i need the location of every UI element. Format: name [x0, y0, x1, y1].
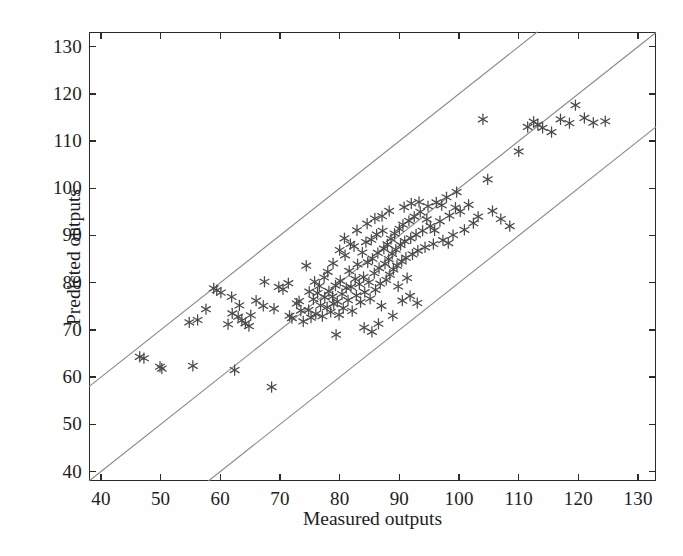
x-tick-mark-top	[339, 32, 340, 39]
scatter-point	[408, 249, 417, 259]
y-tick-mark	[89, 46, 96, 47]
scatter-point	[429, 239, 438, 249]
y-tick-label: 110	[54, 130, 82, 152]
scatter-point	[363, 219, 372, 229]
scatter-point	[305, 287, 314, 297]
scatter-point	[412, 229, 421, 239]
scatter-point	[436, 216, 445, 226]
scatter-point	[445, 211, 454, 221]
x-tick-label: 130	[624, 488, 653, 510]
x-tick-mark-top	[458, 32, 459, 39]
y-tick-label: 70	[63, 319, 82, 341]
scatter-point	[406, 233, 415, 243]
y-tick-label: 130	[53, 36, 82, 58]
scatter-point	[224, 319, 233, 329]
scatter-point	[235, 300, 244, 310]
x-tick-mark	[339, 474, 340, 481]
y-tick-mark	[89, 424, 96, 425]
scatter-point	[228, 308, 237, 318]
y-tick-mark-right	[649, 376, 656, 377]
y-tick-label: 80	[63, 272, 82, 294]
scatter-point	[496, 214, 505, 224]
y-tick-mark-right	[649, 188, 656, 189]
scatter-point	[353, 225, 362, 235]
reference-line-lower-band	[208, 127, 656, 481]
x-tick-mark-top	[399, 32, 400, 39]
x-tick-label: 70	[270, 488, 289, 510]
scatter-point	[246, 310, 255, 320]
y-tick-mark-right	[649, 140, 656, 141]
scatter-points	[135, 100, 609, 392]
x-tick-mark	[160, 474, 161, 481]
y-tick-mark	[89, 471, 96, 472]
x-tick-label: 110	[505, 488, 533, 510]
x-tick-mark	[100, 474, 101, 481]
scatter-point	[260, 277, 269, 287]
scatter-point	[299, 316, 308, 326]
scatter-point	[418, 226, 427, 236]
scatter-point	[488, 206, 497, 216]
y-tick-mark	[89, 376, 96, 377]
x-tick-label: 90	[390, 488, 409, 510]
x-tick-mark	[220, 474, 221, 481]
scatter-point	[589, 118, 598, 128]
x-tick-mark-top	[279, 32, 280, 39]
scatter-point	[351, 274, 360, 284]
y-tick-mark-right	[649, 424, 656, 425]
scatter-point	[479, 114, 488, 124]
scatter-point	[556, 114, 565, 124]
scatter-point	[547, 127, 556, 137]
scatter-point	[400, 202, 409, 212]
plot-area: 4050607080901001101201304050607080901001…	[89, 32, 656, 481]
scatter-point	[421, 242, 430, 252]
y-tick-label: 90	[63, 224, 82, 246]
scatter-point	[307, 313, 316, 323]
y-tick-label: 40	[63, 461, 82, 483]
y-tick-mark-right	[649, 235, 656, 236]
scatter-point	[313, 288, 322, 298]
y-tick-mark	[89, 188, 96, 189]
scatter-point	[413, 298, 422, 308]
y-tick-mark-right	[649, 329, 656, 330]
x-tick-mark-top	[100, 32, 101, 39]
y-tick-mark-right	[649, 93, 656, 94]
x-tick-label: 60	[211, 488, 230, 510]
scatter-point	[474, 212, 483, 222]
x-tick-label: 50	[151, 488, 170, 510]
y-tick-label: 100	[53, 177, 82, 199]
x-tick-mark-top	[160, 32, 161, 39]
scatter-point	[514, 146, 523, 156]
scatter-point	[366, 294, 375, 304]
scatter-point	[348, 306, 357, 316]
scatter-point	[339, 303, 348, 313]
y-axis-label: Predicted outputs	[63, 189, 85, 325]
scatter-point	[356, 297, 365, 307]
scatter-point	[355, 279, 364, 289]
y-tick-mark	[89, 140, 96, 141]
y-tick-label: 50	[63, 413, 82, 435]
scatter-point	[157, 364, 166, 374]
y-tick-mark	[89, 235, 96, 236]
scatter-point	[483, 174, 492, 184]
x-tick-mark	[279, 474, 280, 481]
scatter-point	[377, 301, 386, 311]
scatter-point	[360, 287, 369, 297]
scatter-plot-figure: Predicted outputs 4050607080901001101201…	[0, 0, 683, 556]
y-tick-mark-right	[649, 282, 656, 283]
x-tick-mark	[637, 474, 638, 481]
scatter-point	[394, 281, 403, 291]
scatter-point	[332, 330, 341, 340]
scatter-point	[230, 365, 239, 375]
scatter-point	[378, 226, 387, 236]
scatter-point	[185, 317, 194, 327]
scatter-point	[270, 304, 279, 314]
y-axis-label-container: Predicted outputs	[0, 32, 26, 481]
scatter-point	[388, 311, 397, 321]
x-tick-mark	[399, 474, 400, 481]
scatter-point	[295, 296, 304, 306]
y-tick-label: 120	[53, 83, 82, 105]
scatter-point	[565, 118, 574, 128]
scatter-point	[374, 319, 383, 329]
scatter-point	[413, 246, 422, 256]
scatter-point	[344, 295, 353, 305]
